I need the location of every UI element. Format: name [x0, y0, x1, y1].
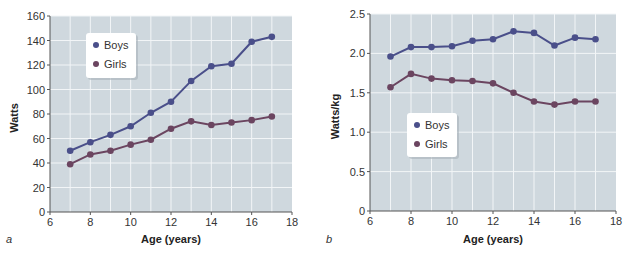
data-point-boys: [168, 98, 175, 105]
y-tick-label: 60: [33, 133, 45, 145]
legend-label-girls: Girls: [104, 58, 127, 70]
legend-marker-girls: [93, 61, 99, 67]
x-tick-label: 18: [286, 216, 298, 228]
x-tick-label: 10: [125, 216, 137, 228]
data-point-girls: [208, 122, 215, 129]
legend-label-boys: Boys: [425, 119, 450, 131]
legend-marker-girls: [414, 141, 420, 147]
data-point-girls: [408, 71, 415, 78]
y-tick-label: 80: [33, 108, 45, 120]
x-axis-label: Age (years): [141, 233, 201, 245]
figure: 681012141618020406080100120140160Age (ye…: [0, 0, 625, 254]
data-point-girls: [490, 80, 497, 87]
data-point-girls: [531, 98, 538, 105]
data-point-boys: [127, 123, 134, 130]
x-tick-label: 8: [408, 215, 414, 227]
y-tick-label: 2.0: [350, 47, 365, 59]
legend-marker-boys: [414, 122, 420, 128]
data-point-boys: [428, 44, 435, 51]
data-point-girls: [572, 98, 579, 105]
data-point-boys: [592, 36, 599, 43]
data-point-boys: [269, 34, 276, 41]
data-point-boys: [449, 43, 456, 50]
data-point-girls: [428, 75, 435, 82]
y-tick-label: 160: [27, 10, 45, 22]
data-point-girls: [510, 90, 517, 97]
y-tick-label: 140: [27, 35, 45, 47]
data-point-girls: [248, 117, 255, 124]
data-point-girls: [228, 119, 235, 126]
chart-a: 681012141618020406080100120140160Age (ye…: [6, 10, 298, 245]
y-tick-label: 2.5: [350, 8, 365, 20]
x-axis-label: Age (years): [463, 233, 523, 245]
data-point-boys: [490, 36, 497, 43]
data-point-boys: [408, 44, 415, 51]
legend-marker-boys: [93, 42, 99, 48]
data-point-girls: [67, 161, 74, 168]
data-point-girls: [168, 125, 175, 132]
legend-label-boys: Boys: [104, 39, 129, 51]
legend: BoysGirls: [86, 33, 138, 80]
data-point-girls: [87, 151, 94, 158]
data-point-girls: [107, 147, 114, 154]
y-tick-label: 0.5: [350, 166, 365, 178]
y-tick-label: 0: [39, 206, 45, 218]
data-point-boys: [531, 30, 538, 37]
data-point-girls: [148, 136, 155, 143]
y-tick-label: 120: [27, 59, 45, 71]
data-point-boys: [248, 38, 255, 45]
x-tick-label: 18: [610, 215, 622, 227]
x-tick-label: 12: [487, 215, 499, 227]
data-point-boys: [87, 139, 94, 146]
data-point-girls: [269, 113, 276, 120]
y-tick-label: 40: [33, 157, 45, 169]
data-point-boys: [228, 60, 235, 67]
y-axis-label: Watts: [8, 103, 20, 133]
chart-b: 68101214161800.51.01.52.02.5Age (years)W…: [326, 8, 622, 245]
x-tick-label: 10: [446, 215, 458, 227]
data-point-girls: [551, 101, 558, 108]
y-tick-label: 1.0: [350, 126, 365, 138]
data-point-girls: [387, 84, 394, 91]
data-point-girls: [469, 78, 476, 85]
x-tick-label: 14: [528, 215, 540, 227]
x-tick-label: 6: [367, 215, 373, 227]
y-tick-label: 100: [27, 84, 45, 96]
panel-label: b: [326, 233, 332, 245]
x-tick-label: 12: [165, 216, 177, 228]
panel-label: a: [6, 233, 12, 245]
y-tick-label: 20: [33, 182, 45, 194]
y-tick-label: 0: [359, 205, 365, 217]
data-point-boys: [208, 63, 215, 70]
data-point-boys: [67, 147, 74, 154]
x-tick-label: 14: [205, 216, 217, 228]
data-point-boys: [107, 132, 114, 139]
data-point-girls: [449, 77, 456, 84]
data-point-girls: [127, 141, 134, 148]
data-point-boys: [148, 109, 155, 116]
data-point-girls: [188, 118, 195, 125]
legend: BoysGirls: [407, 113, 459, 159]
data-point-boys: [387, 53, 394, 60]
y-axis-label: Watts/kg: [329, 94, 341, 139]
x-tick-label: 6: [47, 216, 53, 228]
x-tick-label: 8: [87, 216, 93, 228]
data-point-boys: [572, 34, 579, 41]
y-tick-label: 1.5: [350, 87, 365, 99]
x-tick-label: 16: [246, 216, 258, 228]
data-point-boys: [188, 78, 195, 85]
legend-label-girls: Girls: [425, 138, 448, 150]
x-tick-label: 16: [569, 215, 581, 227]
data-point-boys: [510, 28, 517, 35]
data-point-boys: [469, 37, 476, 44]
data-point-girls: [592, 98, 599, 105]
data-point-boys: [551, 42, 558, 49]
